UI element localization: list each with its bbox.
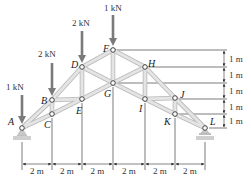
horizontal-dimension-label: 2 m [30,166,44,176]
horizontal-dimension-label: 2 m [153,166,167,176]
joint-G [111,81,116,86]
joint-B [50,98,55,103]
load-label: 1 kN [6,82,24,92]
horizontal-dimension-label: 2 m [91,166,105,176]
joint-label-H: H [147,58,156,69]
joint-E [80,97,85,102]
horizontal-dimension-label: 2 m [122,166,136,176]
vertical-dimension-label: 1 m [229,102,243,112]
joint-F [111,48,116,53]
load-arrow-icon [78,31,86,63]
load-arrow-icon [109,15,117,46]
vertical-dimension-label: 1 m [229,70,243,80]
joint-D [80,65,85,70]
joint-label-D: D [70,59,79,70]
joint-J [173,96,178,101]
joint-A [20,126,25,131]
load-label: 2 kN [72,18,90,28]
truss-diagram: 2 m2 m2 m2 m2 m2 m1 m1 m1 m1 m1 m 1 kN2 … [0,0,251,184]
joint-label-B: B [41,95,47,106]
joint-C [50,112,55,117]
joint-label-I: I [138,103,143,114]
horizontal-dimension-label: 2 m [60,166,74,176]
load-arrow-icon [48,63,56,96]
horizontal-dimension-label: 2 m [183,166,197,176]
joint-label-C: C [44,119,51,130]
joint-label-F: F [102,43,110,54]
vertical-dimension-label: 1 m [229,54,243,64]
joint-L [203,126,208,131]
joint-label-E: E [75,105,82,116]
joint-I [143,97,148,102]
load-arrow-icon [18,95,26,124]
vertical-dimension-label: 1 m [229,86,243,96]
joint-K [173,112,178,117]
load-label: 2 kN [38,49,56,59]
joint-label-K: K [163,116,172,127]
joint-label-G: G [104,88,111,99]
joint-label-L: L [209,116,216,127]
vertical-dimension-label: 1 m [229,116,243,126]
joint-label-J: J [180,89,185,100]
joint-H [143,65,148,70]
load-label: 1 kN [104,3,122,13]
joint-label-A: A [7,116,15,127]
